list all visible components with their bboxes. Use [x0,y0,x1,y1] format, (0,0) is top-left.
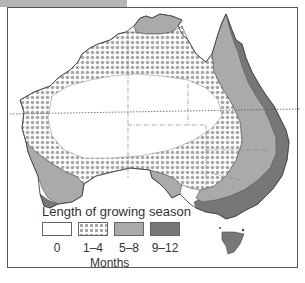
legend-label-5-8: 5–8 [111,241,147,255]
tasmania [222,232,244,254]
legend-label-9-12: 9–12 [147,241,183,255]
legend-label-1-4: 1–4 [75,241,111,255]
island [219,227,221,229]
legend-unit-label: Months [90,256,129,270]
legend-label-0: 0 [39,241,75,255]
legend-swatch-1-4 [78,222,108,236]
legend-swatch-5-8 [114,222,144,236]
legend-title: Length of growing season [42,204,191,219]
legend-swatch-9-12 [150,222,180,236]
legend-swatch-0 [42,222,72,236]
island [242,229,244,231]
